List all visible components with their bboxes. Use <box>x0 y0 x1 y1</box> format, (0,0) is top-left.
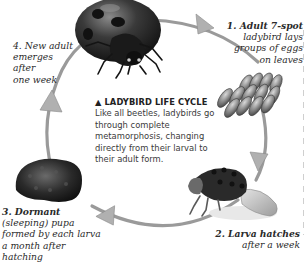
arrow-head-right-icon <box>250 152 268 171</box>
stage-3-label: 3. Dormant (sleeping) pupa formed by eac… <box>2 206 102 262</box>
larva-image <box>188 168 277 221</box>
stage-3-line-2: formed by each larva <box>2 228 102 239</box>
life-cycle-caption: ▲ LADYBIRD LIFE CYCLE Like all beetles, … <box>95 97 220 165</box>
stage-1-label: 1. Adult 7-spot ladybird lays groups of … <box>218 20 303 65</box>
stage-4-number: 4. <box>13 40 22 51</box>
stage-1-number: 1. <box>227 20 237 31</box>
stage-1-line-3: on leaves <box>218 54 303 65</box>
stage-4-label: 4. New adult emerges after one week <box>13 40 73 85</box>
arrow-head-left-icon <box>40 90 62 112</box>
stage-4-line-1: emerges after <box>13 51 73 73</box>
stage-4-line-2: one week <box>13 74 73 85</box>
stage-2-line-1: after a week <box>210 239 300 250</box>
triangle-marker-icon: ▲ <box>95 97 101 107</box>
stage-1-lead: Adult 7-spot <box>240 20 303 31</box>
adult-ladybird-image <box>75 0 162 78</box>
stage-1-line-2: groups of eggs <box>218 42 303 53</box>
caption-title: ▲ LADYBIRD LIFE CYCLE <box>95 97 220 108</box>
stage-3-number: 3. <box>2 206 12 217</box>
caption-body: Like all beetles, ladybirds go through c… <box>95 108 220 165</box>
stage-1-line-1: ladybird lays <box>218 31 303 42</box>
stage-3-lead: Dormant <box>15 206 61 217</box>
stage-2-number: 2. <box>215 228 225 239</box>
stage-2-lead: Larva hatches <box>228 228 300 239</box>
stage-3-line-1: (sleeping) pupa <box>2 217 102 228</box>
caption-title-text: LADYBIRD LIFE CYCLE <box>104 97 207 107</box>
pupa-image <box>16 159 82 202</box>
page-edge-divider <box>303 30 304 235</box>
stage-3-line-3: a month after hatching <box>2 240 102 262</box>
stage-4-lead: New adult <box>25 40 73 51</box>
egg-cluster-image <box>215 71 285 120</box>
stage-2-label: 2. Larva hatches after a week <box>210 228 300 250</box>
